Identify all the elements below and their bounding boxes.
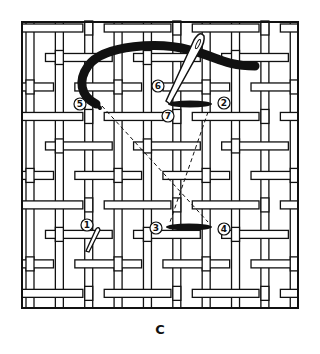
marker-4: 4 — [218, 223, 230, 235]
svg-text:4: 4 — [221, 224, 227, 234]
svg-text:6: 6 — [155, 81, 161, 91]
svg-text:3: 3 — [153, 223, 159, 233]
figure-caption: C — [0, 322, 320, 337]
stitch-3-4 — [166, 224, 212, 231]
marker-3: 3 — [150, 222, 162, 234]
svg-text:5: 5 — [77, 99, 83, 109]
marker-2: 2 — [218, 97, 230, 109]
marker-7: 7 — [162, 110, 174, 122]
marker-6: 6 — [152, 80, 164, 92]
marker-5: 5 — [74, 98, 86, 110]
svg-text:2: 2 — [221, 98, 227, 108]
stitch-7-2 — [168, 101, 212, 108]
svg-text:7: 7 — [165, 111, 171, 121]
svg-text:1: 1 — [84, 220, 90, 230]
marker-1: 1 — [81, 219, 93, 231]
stitch-diagram: 1234567 — [0, 0, 320, 354]
